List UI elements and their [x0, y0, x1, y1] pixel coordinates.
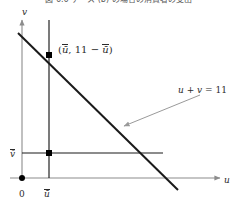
origin-tick-label: 0 — [19, 190, 25, 199]
point-marker-upper — [46, 52, 52, 58]
paren-close: ) — [109, 44, 113, 55]
u-bar-symbol-2: ū — [102, 45, 108, 55]
figure-container: 図 6.6 ケース (b) の場合の消費者の支出 (ū, 11 − ū) u… — [0, 0, 237, 209]
line-equation-label: u + v = 11 — [178, 86, 227, 95]
annotation-leader-line — [124, 95, 200, 126]
x-axis-label: u — [224, 176, 230, 185]
v-bar-tick-symbol: v̄ — [10, 150, 15, 159]
equation-rhs: 11 — [215, 85, 226, 95]
u-bar-symbol: ū — [62, 45, 68, 55]
point-coordinate-label: (ū, 11 − ū) — [58, 45, 113, 55]
minus-sign: − — [87, 44, 102, 55]
equation-equals: = — [202, 85, 215, 95]
y-tick-label-vbar: v̄ — [10, 150, 15, 159]
budget-constraint-line — [18, 33, 178, 190]
point-marker-lower — [46, 150, 52, 156]
u-bar-tick-symbol: ū — [44, 190, 50, 199]
point-marker-origin — [19, 175, 25, 181]
equation-plus: + — [184, 85, 197, 95]
y-axis-label: v — [22, 8, 27, 17]
plot-area — [0, 0, 237, 209]
constant-eleven: 11 — [75, 44, 88, 55]
x-tick-label-ubar: ū — [44, 190, 50, 199]
